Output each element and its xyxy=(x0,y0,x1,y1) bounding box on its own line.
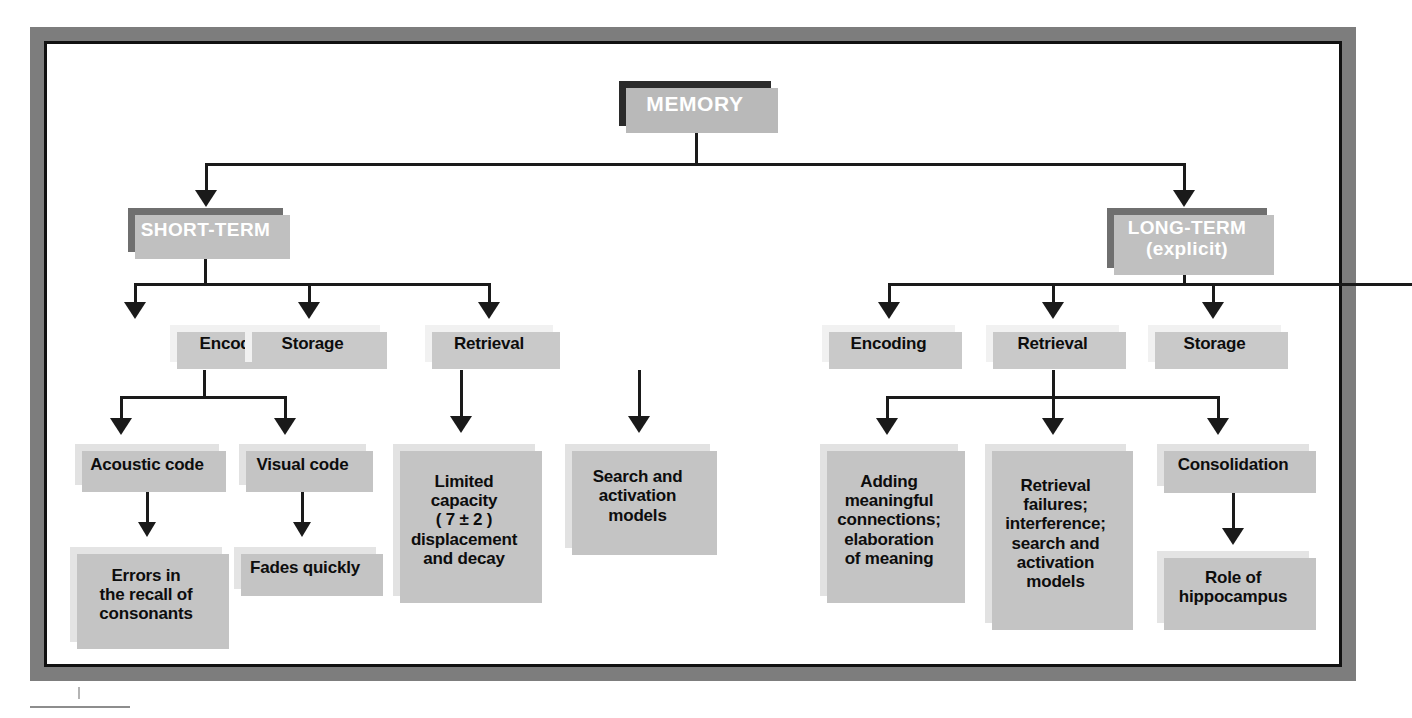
arrow-to-limited-capacity xyxy=(450,416,472,433)
node-label: Acoustic code xyxy=(75,444,219,485)
connector-lt-detail-drop-adding xyxy=(886,396,889,420)
node-label: Limitedcapacity( 7 ± 2 )displacementand … xyxy=(393,444,535,596)
node-label: Errors inthe recall ofconsonants xyxy=(70,547,222,642)
node-label-line1: LONG-TERM xyxy=(1128,217,1247,238)
node-consolidation[interactable]: Consolidation xyxy=(1157,444,1309,486)
node-label-group: LONG-TERM (explicit) xyxy=(1107,208,1267,268)
node-st-retrieval[interactable]: Retrieval xyxy=(425,325,553,362)
node-label: MEMORY xyxy=(619,81,771,126)
arrow-to-st-encoding xyxy=(124,302,146,319)
connector-st-bar xyxy=(134,283,491,286)
node-label: Fades quickly xyxy=(234,547,376,589)
arrow-to-long-term xyxy=(1173,190,1195,207)
connector-st-drop-storage xyxy=(308,283,311,304)
connector-st-encoding-stem xyxy=(203,370,206,398)
arrow-to-st-retrieval xyxy=(478,302,500,319)
connector-st-storage-stem xyxy=(460,370,463,418)
arrow-to-retrieval-failures xyxy=(1042,418,1064,435)
node-label: Visual code xyxy=(239,444,366,485)
arrow-to-short-term xyxy=(195,190,217,207)
arrow-to-fades-quickly xyxy=(293,522,311,537)
node-st-search-activation[interactable]: Search andactivationmodels xyxy=(565,444,710,548)
arrow-to-acoustic-code xyxy=(110,418,132,435)
arrow-to-visual-code xyxy=(274,418,296,435)
caption-tick xyxy=(78,687,80,699)
node-lt-encoding[interactable]: Encoding xyxy=(822,325,955,362)
node-label: Retrieval xyxy=(986,325,1119,362)
node-retrieval-failures[interactable]: Retrievalfailures;interference;search an… xyxy=(985,444,1126,623)
node-st-storage[interactable]: Storage xyxy=(245,325,380,362)
connector-root-bar xyxy=(205,163,1186,166)
node-label: SHORT-TERM xyxy=(128,208,283,252)
node-acoustic-code[interactable]: Acoustic code xyxy=(75,444,219,485)
node-label: Addingmeaningfulconnections;elaborationo… xyxy=(820,444,958,596)
connector-lt-drop-encoding xyxy=(888,283,891,304)
connector-st-drop-retrieval xyxy=(488,283,491,304)
arrow-to-lt-encoding xyxy=(878,302,900,319)
node-lt-retrieval[interactable]: Retrieval xyxy=(986,325,1119,362)
arrow-to-consolidation xyxy=(1207,418,1229,435)
node-fades-quickly[interactable]: Fades quickly xyxy=(234,547,376,589)
arrow-to-lt-retrieval xyxy=(1042,302,1064,319)
arrow-to-adding-meaningful xyxy=(876,418,898,435)
arrow-to-lt-storage xyxy=(1202,302,1224,319)
node-short-term[interactable]: SHORT-TERM xyxy=(128,208,283,252)
connector-visual-stem xyxy=(301,492,304,526)
node-label: Storage xyxy=(245,325,380,362)
node-label-line2: (explicit) xyxy=(1146,238,1228,259)
connector-lt-detail-drop-consolidation xyxy=(1217,396,1220,420)
connector-root-right-drop xyxy=(1183,163,1186,192)
connector-root-left-drop xyxy=(205,163,208,192)
connector-lt-drop-retrieval xyxy=(1052,283,1055,304)
connector-st-encoding-bar xyxy=(120,396,287,399)
connector-st-drop-encoding xyxy=(134,283,137,304)
node-label: Consolidation xyxy=(1157,444,1309,486)
node-errors-recall-consonants[interactable]: Errors inthe recall ofconsonants xyxy=(70,547,222,642)
arrow-to-st-search-activation xyxy=(628,416,650,433)
arrow-to-errors-recall xyxy=(138,522,156,537)
connector-st-encoding-drop-left xyxy=(120,396,123,420)
arrow-to-role-of-hippocampus xyxy=(1222,528,1244,545)
connector-consolidation-stem xyxy=(1232,493,1235,532)
node-lt-storage[interactable]: Storage xyxy=(1148,325,1281,362)
node-label: Retrievalfailures;interference;search an… xyxy=(985,444,1126,623)
connector-acoustic-stem xyxy=(146,492,149,526)
node-memory[interactable]: MEMORY xyxy=(619,81,771,126)
node-label: Encoding xyxy=(822,325,955,362)
node-role-of-hippocampus[interactable]: Role ofhippocampus xyxy=(1157,551,1309,623)
node-visual-code[interactable]: Visual code xyxy=(239,444,366,485)
node-label: Storage xyxy=(1148,325,1281,362)
connector-st-encoding-drop-right xyxy=(284,396,287,420)
node-adding-meaningful-connections[interactable]: Addingmeaningfulconnections;elaborationo… xyxy=(820,444,958,596)
node-label: Retrieval xyxy=(425,325,553,362)
connector-lt-bar xyxy=(888,283,1412,286)
connector-lt-retrieval-stem xyxy=(1052,370,1055,398)
connector-st-retrieval-stem xyxy=(638,370,641,418)
connector-lt-drop-storage xyxy=(1212,283,1215,304)
node-long-term[interactable]: LONG-TERM (explicit) xyxy=(1107,208,1267,268)
caption-rule xyxy=(30,706,130,708)
node-label: Search andactivationmodels xyxy=(565,444,710,548)
connector-lt-detail-drop-failures xyxy=(1052,396,1055,420)
node-limited-capacity[interactable]: Limitedcapacity( 7 ± 2 )displacementand … xyxy=(393,444,535,596)
node-label: Role ofhippocampus xyxy=(1157,551,1309,623)
arrow-to-st-storage xyxy=(298,302,320,319)
